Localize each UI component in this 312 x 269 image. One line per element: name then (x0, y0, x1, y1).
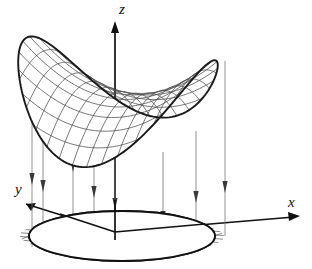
figure-canvas: x y z (0, 0, 312, 269)
x-axis-arrowhead (288, 212, 300, 221)
projection-arrowhead (91, 186, 96, 198)
projection-arrowhead (40, 180, 45, 192)
y-axis-label: y (13, 181, 22, 197)
projection-arrowhead (193, 191, 198, 203)
saddle-surface-figure: x y z (0, 0, 312, 269)
domain-disk-group (20, 211, 224, 261)
z-axis-label: z (118, 1, 125, 17)
saddle-surface-group (18, 36, 218, 167)
x-axis-label: x (287, 194, 295, 210)
projection-arrowhead (29, 173, 34, 185)
z-axis-arrowhead (111, 21, 119, 33)
projection-arrowhead (222, 181, 227, 193)
domain-disk-rim (29, 211, 215, 261)
